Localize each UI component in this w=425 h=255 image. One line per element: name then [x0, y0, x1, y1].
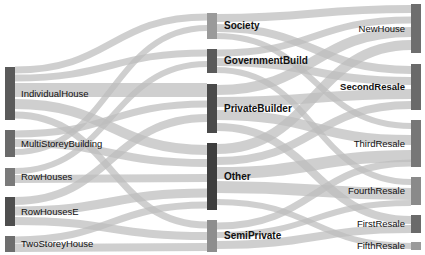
node-SemiPrivate[interactable]	[207, 220, 217, 252]
node-MultiStoreyBuilding[interactable]	[5, 130, 15, 157]
node-Other[interactable]	[207, 143, 217, 210]
node-TwoStoreyHouse[interactable]	[5, 236, 15, 252]
node-PrivateBuilder[interactable]	[207, 84, 217, 133]
node-label-FifthResale: FifthResale	[357, 241, 405, 251]
node-label-Society: Society	[224, 21, 260, 31]
node-FifthResale[interactable]	[411, 242, 421, 250]
node-label-SemiPrivate: SemiPrivate	[224, 231, 281, 241]
node-label-TwoStoreyHouse: TwoStoreyHouse	[21, 239, 93, 249]
node-label-RowHousesE: RowHousesE	[21, 207, 79, 217]
node-label-MultiStoreyBuilding: MultiStoreyBuilding	[21, 139, 102, 149]
node-ThirdResale[interactable]	[411, 120, 421, 167]
sankey-diagram	[0, 0, 425, 255]
node-IndividualHouse[interactable]	[5, 67, 15, 120]
node-label-FirstResale: FirstResale	[357, 219, 405, 229]
node-label-IndividualHouse: IndividualHouse	[21, 89, 89, 99]
node-Society[interactable]	[207, 13, 217, 39]
node-RowHousesE[interactable]	[5, 197, 15, 226]
node-label-NewHouse: NewHouse	[359, 24, 405, 34]
node-RowHouses[interactable]	[5, 168, 15, 186]
node-label-SecondResale: SecondResale	[340, 82, 405, 92]
node-FourthResale[interactable]	[411, 177, 421, 205]
node-NewHouse[interactable]	[411, 4, 421, 53]
node-label-Other: Other	[224, 172, 251, 182]
node-label-GovernmentBuild: GovernmentBuild	[224, 56, 308, 66]
node-SecondResale[interactable]	[411, 64, 421, 110]
node-label-FourthResale: FourthResale	[348, 186, 405, 196]
node-label-RowHouses: RowHouses	[21, 172, 72, 182]
node-label-ThirdResale: ThirdResale	[354, 139, 405, 149]
link-Society-to-NewHouse[interactable]	[217, 9, 411, 18]
node-FirstResale[interactable]	[411, 215, 421, 233]
node-label-PrivateBuilder: PrivateBuilder	[224, 104, 292, 114]
node-GovernmentBuild[interactable]	[207, 49, 217, 73]
